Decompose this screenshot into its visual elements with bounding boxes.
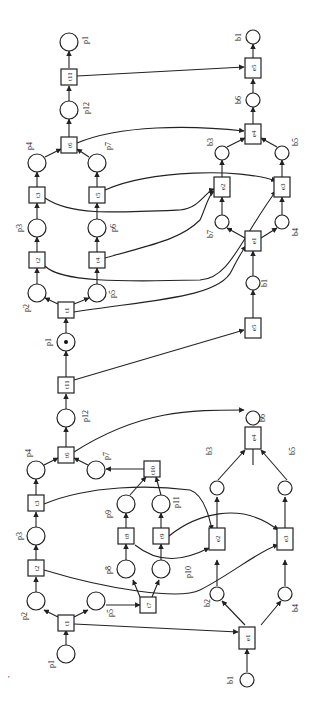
label: b6: [258, 414, 267, 422]
upper-net: p1 t11 p12 t6 p4 p7 t3 t5 p3 p6 t2 t4 p2…: [15, 30, 300, 452]
label: p1: [81, 36, 90, 44]
label: p12: [81, 410, 90, 422]
label: b5: [288, 447, 297, 455]
place-p7-top: [88, 154, 106, 172]
label: t6: [66, 142, 74, 148]
label: e5: [250, 64, 258, 71]
place-p11-lower: [152, 495, 170, 513]
label: t2: [33, 565, 41, 571]
place-b7-top: [215, 215, 229, 229]
lower-net: p12 t6 p4 p7 t3 t10 p9 p11 p3 t8 t9 p8 p…: [8, 351, 300, 687]
place-p3-lower: [27, 527, 45, 545]
label: t6: [63, 452, 71, 458]
label: p6: [109, 224, 118, 232]
label: p12: [82, 102, 91, 114]
label: p7: [104, 142, 113, 150]
place-b5-top: [275, 146, 289, 160]
label: p4: [24, 449, 33, 457]
label: t7: [145, 602, 153, 608]
label: p1: [47, 660, 56, 668]
place-p1-top: [60, 33, 78, 51]
label: b1: [260, 279, 269, 287]
place-p4-top: [28, 154, 46, 172]
label: b7: [206, 230, 215, 238]
label: e4: [250, 434, 258, 441]
label: e4: [250, 130, 258, 137]
label: e3: [279, 183, 287, 190]
place-b6-top: [246, 93, 260, 107]
place-p12-lower: [57, 409, 75, 427]
place-p4-lower: [27, 461, 45, 479]
label: t10: [149, 466, 157, 475]
label: t1: [63, 307, 71, 313]
label: e1: [250, 237, 258, 244]
place-b5-lower: [278, 481, 292, 495]
place-b1-mid: [246, 276, 260, 290]
label: e3: [282, 535, 290, 542]
label: b3: [205, 447, 214, 455]
label: p7: [102, 452, 111, 460]
place-b3-lower: [210, 481, 224, 495]
label: p9: [104, 510, 113, 518]
place-p3-top: [28, 219, 46, 237]
label: p8: [104, 566, 113, 574]
place-p7-lower: [87, 461, 105, 479]
label: t8: [123, 533, 131, 539]
place-p8-lower: [117, 560, 135, 578]
label: b3: [206, 138, 215, 146]
label: b5: [291, 138, 300, 146]
label: b2: [203, 599, 212, 607]
petri-net-diagram: p1 t11 p12 t6 p4 p7 t3 t5 p3 p6 t2 t4 p2…: [0, 0, 317, 708]
place-p1-lower: [57, 645, 75, 663]
label: b1: [234, 33, 243, 41]
place-p5-lower: [87, 592, 105, 610]
label: p1: [44, 338, 53, 346]
label: t4: [94, 257, 102, 263]
place-p5-top: [88, 284, 106, 302]
label: t3: [34, 192, 42, 198]
place-b3-top: [215, 146, 229, 160]
token: [64, 340, 68, 344]
label: e2: [219, 183, 227, 190]
label: e1: [244, 634, 252, 641]
place-b1-top: [246, 30, 260, 44]
label: p2: [22, 304, 31, 312]
place-b1-lower: [240, 673, 254, 687]
label: t5: [94, 192, 102, 198]
label: t11: [63, 380, 71, 389]
place-p6-top: [88, 219, 106, 237]
label: p2: [20, 612, 29, 620]
label: t11: [66, 72, 74, 81]
label: p4: [25, 142, 34, 150]
place-p12-top: [60, 101, 78, 119]
label: p3: [15, 532, 24, 540]
label: t2: [34, 257, 42, 263]
place-p2-top: [28, 284, 46, 302]
label: t1: [63, 620, 71, 626]
place-b4-lower: [278, 587, 292, 601]
label: p5: [106, 609, 115, 617]
label: b4: [291, 604, 300, 612]
label: p10: [184, 566, 193, 578]
place-p10-lower: [152, 560, 170, 578]
label: e5: [250, 324, 258, 331]
label: b4: [291, 228, 300, 236]
label: b1: [226, 676, 235, 684]
label: p11: [172, 496, 181, 508]
stray-mark: ': [8, 675, 10, 684]
place-b4-top: [275, 215, 289, 229]
place-p2-lower: [27, 592, 45, 610]
place-p9-lower: [117, 495, 135, 513]
label: p5: [108, 290, 117, 298]
place-b2-lower: [210, 587, 224, 601]
label: p3: [15, 224, 24, 232]
label: t3: [33, 500, 41, 506]
label: t9: [158, 533, 166, 539]
label: b6: [234, 96, 243, 104]
label: e2: [214, 535, 222, 542]
